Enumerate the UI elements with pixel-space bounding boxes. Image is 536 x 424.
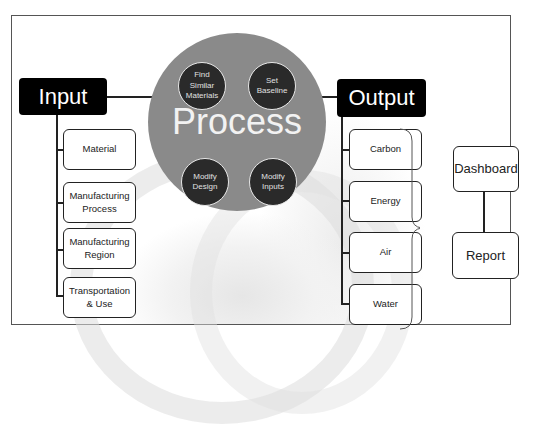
output-brace [398,127,420,331]
report-box: Report [452,232,519,279]
input-item-transportation-use: Transportation & Use [63,277,136,318]
process-title: Process [148,101,326,143]
output-header: Output [337,79,426,117]
process-step-modify-inputs: Modify Inputs [249,158,297,206]
dashboard-box: Dashboard [453,146,519,192]
input-item-material: Material [63,129,136,170]
input-item-manufacturing-process: Manufacturing Process [63,182,136,223]
process-step-set-baseline: Set Baseline [248,62,296,110]
dashboard-report-connector [483,192,485,232]
process-step-find-similar-materials: Find Similar Materials [178,62,226,110]
input-item-manufacturing-region: Manufacturing Region [63,228,136,269]
input-spine [56,115,58,295]
input-to-process-connector [107,96,155,98]
process-step-modify-design: Modify Design [181,158,229,206]
output-spine [341,117,343,303]
process-circle: Process Find Similar Materials Set Basel… [148,33,326,211]
input-header: Input [19,78,107,115]
